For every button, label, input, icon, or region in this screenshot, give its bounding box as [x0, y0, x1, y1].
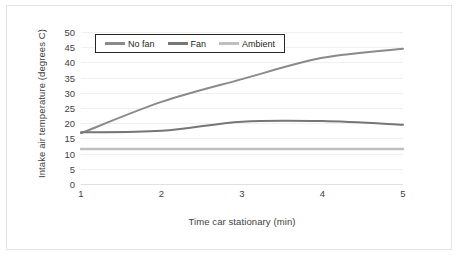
legend-line-swatch-icon — [105, 42, 125, 44]
gridline — [81, 184, 403, 185]
y-tick-label: 15 — [53, 133, 75, 144]
legend-item-ambient[interactable]: Ambient — [219, 39, 275, 49]
y-tick-label: 40 — [53, 57, 75, 68]
legend-item-no-fan[interactable]: No fan — [105, 39, 155, 49]
x-tick-label: 3 — [230, 188, 254, 199]
legend-item-fan[interactable]: Fan — [168, 39, 207, 49]
y-tick-label: 50 — [53, 27, 75, 38]
x-axis-title: Time car stationary (min) — [81, 216, 403, 227]
legend-line-swatch-icon — [168, 42, 188, 44]
x-tick-label: 4 — [311, 188, 335, 199]
y-tick-label: 5 — [53, 163, 75, 174]
x-tick-label: 5 — [391, 188, 415, 199]
y-tick-label: 45 — [53, 42, 75, 53]
y-axis-title: Intake air temperature (degrees C) — [36, 24, 47, 184]
x-tick-label: 2 — [150, 188, 174, 199]
x-tick-label: 1 — [69, 188, 93, 199]
y-tick-label: 20 — [53, 118, 75, 129]
y-tick-label: 10 — [53, 148, 75, 159]
y-tick-label: 25 — [53, 103, 75, 114]
legend-line-swatch-icon — [219, 42, 239, 45]
chart-legend: No fanFanAmbient — [95, 34, 285, 53]
x-axis-tick-labels: 12345 — [81, 188, 403, 202]
series-line-fan — [81, 121, 403, 133]
series-line-no-fan — [81, 49, 403, 134]
chart-frame: Intake air temperature (degrees C) 50454… — [6, 5, 452, 250]
legend-label: No fan — [128, 39, 155, 49]
y-axis-tick-labels: 50454035302520151050 — [53, 32, 75, 184]
y-tick-label: 35 — [53, 72, 75, 83]
legend-label: Ambient — [242, 39, 275, 49]
series-lines — [81, 32, 403, 184]
legend-label: Fan — [191, 39, 207, 49]
plot-area — [81, 32, 403, 184]
y-tick-label: 30 — [53, 87, 75, 98]
